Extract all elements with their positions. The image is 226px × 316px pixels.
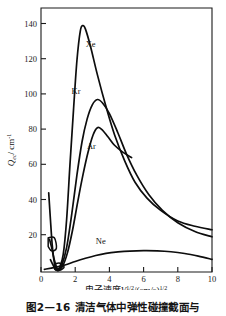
plot-frame [41, 8, 212, 272]
figure-caption: 图2—16 清洁气体中弹性碰撞截面与 [0, 299, 226, 314]
x-axis-exponent-2: 1/2 [160, 285, 168, 290]
y-tick-label: 120 [24, 54, 37, 64]
x-tick-label: 0 [39, 274, 43, 284]
y-axis-unit-exponent: -1 [6, 134, 12, 139]
y-tick-label: 80 [29, 124, 38, 134]
x-axis-title: 电子速度V1/2/(cm/s)1/2 [85, 284, 167, 290]
y-tick-label: 140 [24, 19, 37, 29]
y-tick-label: 100 [24, 89, 37, 99]
x-axis-unit: /(cm/s) [134, 285, 160, 290]
svg-text:Qec/ cm-1: Qec/ cm-1 [6, 134, 17, 167]
data-curves [44, 26, 212, 271]
x-tick-label: 4 [107, 274, 112, 284]
x-axis-ticks [41, 267, 212, 272]
x-axis-title-prefix: 电子速度 [85, 284, 121, 290]
y-axis-unit: / cm [6, 139, 16, 155]
series-label-Ne: Ne [96, 236, 106, 246]
figure-container: 140 120 100 80 60 40 20 0 2 4 6 8 10 [0, 0, 226, 316]
series-label-Ar: Ar [87, 141, 96, 151]
y-axis-ticks [41, 24, 46, 235]
curve-Kr [50, 99, 212, 269]
y-axis-tick-labels: 140 120 100 80 60 40 20 [24, 19, 37, 240]
series-label-Xe: Xe [86, 39, 96, 49]
svg-text:电子速度V1/2/(cm/s)1/2: 电子速度V1/2/(cm/s)1/2 [85, 284, 167, 290]
curve-Ne [44, 251, 212, 270]
x-tick-label: 6 [141, 274, 145, 284]
x-tick-label: 8 [176, 274, 180, 284]
cross-section-vs-velocity-chart: 140 120 100 80 60 40 20 0 2 4 6 8 10 [0, 0, 226, 290]
y-tick-label: 60 [29, 159, 38, 169]
x-axis-exponent-1: 1/2 [126, 285, 134, 290]
series-label-Kr: Kr [72, 86, 81, 96]
y-axis-title: Qec/ cm-1 [6, 134, 17, 167]
y-tick-label: 20 [29, 230, 38, 240]
x-axis-tick-labels: 0 2 4 6 8 10 [39, 274, 216, 284]
curve-Xe [49, 26, 212, 270]
y-tick-label: 40 [29, 195, 38, 205]
x-tick-label: 10 [208, 274, 217, 284]
x-tick-label: 2 [73, 274, 77, 284]
